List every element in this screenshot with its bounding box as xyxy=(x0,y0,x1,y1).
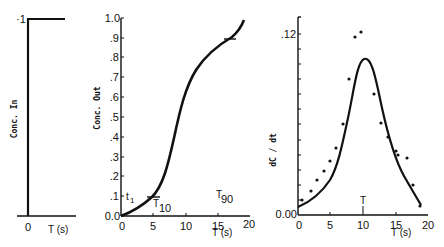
step-input-line xyxy=(28,19,65,216)
y-axis-title: dC / dt xyxy=(269,133,278,167)
svg-text:.8: .8 xyxy=(110,51,119,63)
x-tick-labels: 0 5 10 15 20 xyxy=(119,218,255,232)
svg-text:5: 5 xyxy=(150,220,156,232)
svg-text:0: 0 xyxy=(119,220,125,232)
fitted-curve xyxy=(298,59,421,207)
panel-dcdt: .12 0.00 0 5 10 15 20 T (s) T dC / dt xyxy=(269,17,434,238)
x-tick-0: 0 xyxy=(25,221,31,233)
data-points xyxy=(300,30,421,207)
panel-conc-in: ·1 0 T (s) Conc. In xyxy=(10,13,76,235)
svg-text:0: 0 xyxy=(296,219,302,231)
svg-text:.2: .2 xyxy=(110,170,119,182)
t90-label: T 90 xyxy=(216,189,233,205)
x-tick-labels: 0 5 10 15 20 xyxy=(296,219,434,231)
svg-text:10: 10 xyxy=(159,202,171,214)
svg-text:1: 1 xyxy=(130,196,135,205)
y-tick-000: 0.00 xyxy=(276,208,297,220)
conc-out-curve xyxy=(121,20,244,216)
svg-text:.7: .7 xyxy=(110,71,119,83)
svg-text:10: 10 xyxy=(357,219,369,231)
t10-label: T 10 xyxy=(153,198,171,214)
svg-text:0.0: 0.0 xyxy=(105,210,120,222)
x-axis-title: T (s) xyxy=(212,227,232,238)
svg-text:90: 90 xyxy=(221,193,233,205)
x-axis-title: T (s) xyxy=(48,224,68,235)
svg-text:20: 20 xyxy=(422,219,434,231)
t1-label: t 1 xyxy=(126,191,135,205)
svg-text:.4: .4 xyxy=(110,131,119,143)
svg-text:.9: .9 xyxy=(110,32,119,44)
svg-text:.3: .3 xyxy=(110,151,119,163)
svg-text:.1: .1 xyxy=(110,190,119,202)
y-tick-012: .12 xyxy=(281,28,296,40)
y-axis-title: Conc. In xyxy=(10,100,19,139)
panel-conc-out: 0.0 .1 .2 .3 .4 .5 .6 .7 .8 .9 1.0 0 5 1… xyxy=(93,12,255,238)
y-tick-labels: 0.0 .1 .2 .3 .4 .5 .6 .7 .8 .9 1.0 xyxy=(105,12,120,222)
svg-text:10: 10 xyxy=(180,220,192,232)
y-axis-title: Conc. Out xyxy=(93,86,102,130)
y-tick-1: ·1 xyxy=(16,13,26,25)
svg-text:20: 20 xyxy=(243,218,255,230)
figure: ·1 0 T (s) Conc. In 0.0 .1 .2 .3 .4 .5 .… xyxy=(0,0,444,247)
mean-time-label: T xyxy=(360,195,366,206)
svg-text:t: t xyxy=(126,191,129,202)
svg-text:.6: .6 xyxy=(110,91,119,103)
svg-text:1.0: 1.0 xyxy=(105,12,120,24)
x-axis-title: T (s) xyxy=(391,227,411,238)
svg-text:5: 5 xyxy=(327,219,333,231)
svg-text:.5: .5 xyxy=(110,111,119,123)
